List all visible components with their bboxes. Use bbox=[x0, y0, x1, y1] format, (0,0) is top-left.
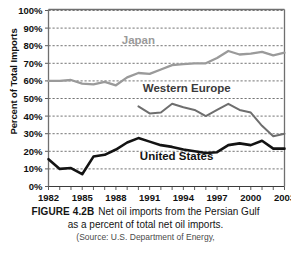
y-tick-label: 100% bbox=[18, 5, 43, 16]
series-label-united-states: United States bbox=[140, 150, 214, 162]
caption-source: (Source: U.S. Department of Energy, bbox=[0, 232, 291, 243]
x-tick-label: 1988 bbox=[105, 192, 126, 203]
y-tick-label: 50% bbox=[23, 93, 43, 104]
series-labels-group: JapanWestern EuropeUnited States bbox=[122, 34, 231, 162]
y-tick-label: 20% bbox=[23, 146, 43, 157]
x-tick-label: 1985 bbox=[72, 192, 94, 203]
series-line-japan bbox=[49, 51, 285, 85]
series-label-western-europe: Western Europe bbox=[143, 82, 231, 94]
x-tick-label: 2003 bbox=[274, 192, 291, 203]
x-tick-label: 1994 bbox=[173, 192, 195, 203]
x-tick-label: 1982 bbox=[38, 192, 59, 203]
x-tick-label: 1997 bbox=[207, 192, 228, 203]
y-tick-label: 90% bbox=[23, 23, 43, 34]
line-chart-svg: 0%10%20%30%40%50%60%70%80%90%100% 198219… bbox=[0, 0, 291, 203]
y-tick-label: 80% bbox=[23, 40, 43, 51]
series-line-western-europe bbox=[138, 104, 284, 137]
series-label-japan: Japan bbox=[122, 34, 155, 46]
caption-text-first-line: Net oil imports from the Persian Gulf bbox=[94, 206, 259, 217]
y-tick-label: 60% bbox=[23, 75, 43, 86]
caption-line-2: as a percent of total net oil imports. bbox=[0, 218, 291, 231]
y-tick-label: 70% bbox=[23, 58, 43, 69]
y-tick-label: 40% bbox=[23, 111, 43, 122]
figure-number: FIGURE 4.2B bbox=[32, 206, 95, 217]
x-tick-label: 2000 bbox=[240, 192, 261, 203]
y-tick-group: 0%10%20%30%40%50%60%70%80%90%100% bbox=[18, 5, 48, 192]
caption-line-1: FIGURE 4.2BNet oil imports from the Pers… bbox=[0, 205, 291, 218]
y-tick-label: 0% bbox=[29, 181, 43, 192]
x-tick-label: 1991 bbox=[139, 192, 161, 203]
figure-caption: FIGURE 4.2BNet oil imports from the Pers… bbox=[0, 205, 291, 243]
x-tick-group: 19821985198819911994199720002003 bbox=[38, 187, 291, 204]
y-tick-label: 10% bbox=[23, 163, 43, 174]
figure-container: Percent of Total Imports 0%10%20%30%40%5… bbox=[0, 0, 291, 259]
y-tick-label: 30% bbox=[23, 128, 43, 139]
chart-area: Percent of Total Imports 0%10%20%30%40%5… bbox=[0, 0, 291, 203]
